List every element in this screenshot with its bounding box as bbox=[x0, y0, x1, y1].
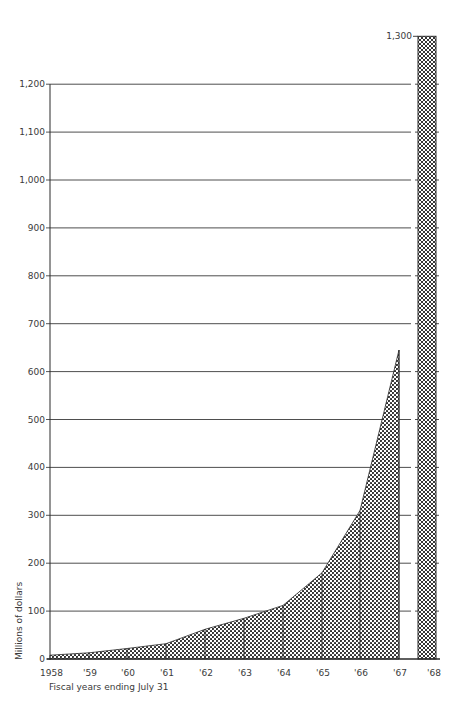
x-tick-label: '60 bbox=[121, 668, 135, 678]
stippled-area bbox=[50, 350, 399, 659]
x-tick-label: '59 bbox=[83, 668, 97, 678]
y-tick-label: 700 bbox=[28, 319, 45, 329]
y-tick-label: 0 bbox=[39, 654, 45, 664]
y-tick-label: 1,100 bbox=[19, 127, 45, 137]
x-tick-label: '64 bbox=[277, 668, 291, 678]
x-tick-label: '66 bbox=[354, 668, 368, 678]
x-tick-label: '65 bbox=[316, 668, 330, 678]
x-tick-labels: 1958'59'60'61'62'63'64'65'66'67'68 bbox=[40, 668, 441, 678]
y-tick-label: 1,000 bbox=[19, 175, 45, 185]
x-tick-label: '68 bbox=[427, 668, 441, 678]
x-axis-label: Fiscal years ending July 31 bbox=[49, 682, 168, 692]
x-tick-label: '62 bbox=[199, 668, 213, 678]
chart: 01002003004005006007008009001,0001,1001,… bbox=[0, 0, 462, 721]
x-tick-label: '67 bbox=[393, 668, 407, 678]
y-tick-label: 800 bbox=[28, 271, 45, 281]
y-tick-label: 300 bbox=[28, 510, 45, 520]
y-tick-label: 200 bbox=[28, 558, 45, 568]
x-tick-label: '63 bbox=[238, 668, 252, 678]
x-tick-label: 1958 bbox=[40, 668, 63, 678]
y-tick-label: 1,300 bbox=[386, 31, 412, 41]
y-tick-label: 100 bbox=[28, 606, 45, 616]
crosshatch-bar-1968 bbox=[413, 36, 436, 659]
y-tick-label: 600 bbox=[28, 367, 45, 377]
y-tick-label: 900 bbox=[28, 223, 45, 233]
bar-1968 bbox=[418, 36, 436, 659]
y-tick-label: 1,200 bbox=[19, 79, 45, 89]
area-series bbox=[50, 350, 399, 659]
y-axis-label: Millions of dollars bbox=[14, 582, 24, 660]
x-tick-label: '61 bbox=[160, 668, 174, 678]
y-tick-label: 400 bbox=[28, 462, 45, 472]
y-tick-label: 500 bbox=[28, 415, 45, 425]
